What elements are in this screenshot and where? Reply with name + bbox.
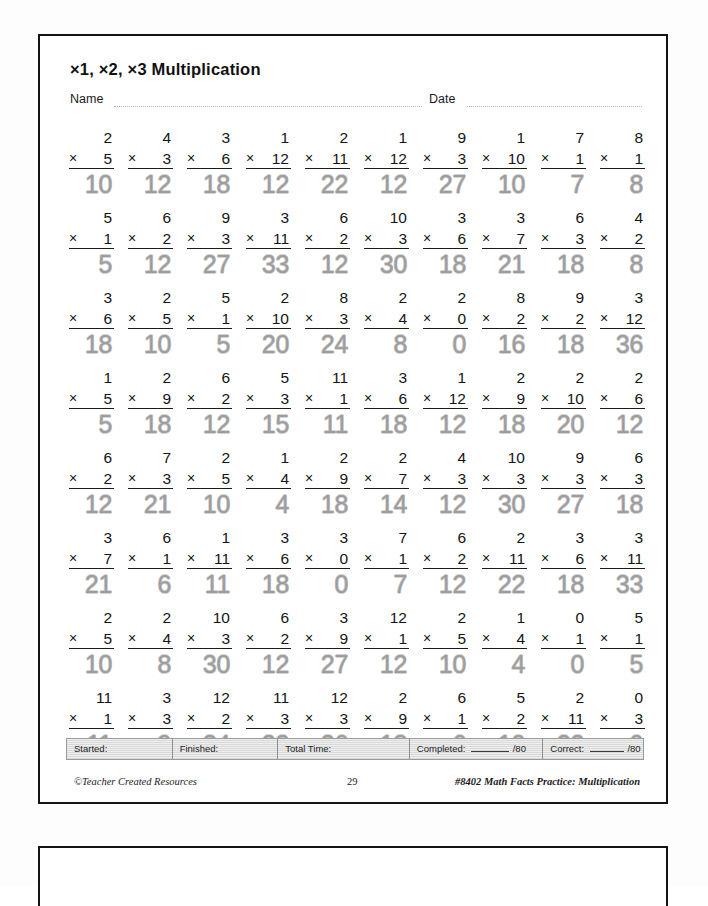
- answer-value[interactable]: 36: [600, 329, 645, 359]
- answer-value[interactable]: 18: [482, 409, 527, 439]
- problem-17: 3×618: [416, 208, 475, 288]
- answer-value[interactable]: 27: [187, 249, 232, 279]
- answer-value[interactable]: 10: [482, 169, 527, 199]
- book-title-credit: #8402 Math Facts Practice: Multiplicatio…: [455, 776, 640, 787]
- answer-value[interactable]: 12: [187, 409, 232, 439]
- answer-value[interactable]: 27: [423, 169, 468, 199]
- answer-value[interactable]: 18: [541, 569, 586, 599]
- bottom-factor: 6: [575, 548, 584, 568]
- date-input-rule[interactable]: [467, 106, 642, 107]
- answer-value[interactable]: 10: [69, 649, 114, 679]
- answer-value[interactable]: 10: [187, 489, 232, 519]
- answer-value[interactable]: 18: [246, 569, 291, 599]
- answer-value[interactable]: 27: [305, 649, 350, 679]
- answer-value[interactable]: 12: [423, 409, 468, 439]
- answer-value[interactable]: 18: [187, 169, 232, 199]
- answer-value[interactable]: 18: [364, 409, 409, 439]
- answer-value[interactable]: 7: [364, 569, 409, 599]
- answer-value[interactable]: 12: [423, 569, 468, 599]
- top-factor: 0: [600, 688, 645, 708]
- answer-value[interactable]: 16: [482, 329, 527, 359]
- answer-value[interactable]: 12: [305, 249, 350, 279]
- answer-value[interactable]: 21: [482, 249, 527, 279]
- operator-row: ×7: [69, 548, 114, 569]
- correct-cell[interactable]: Correct: /80: [543, 739, 643, 759]
- multiply-icon: ×: [128, 148, 136, 168]
- answer-value[interactable]: 8: [128, 649, 173, 679]
- answer-value[interactable]: 33: [246, 249, 291, 279]
- answer-value[interactable]: 18: [423, 249, 468, 279]
- bottom-factor: 7: [516, 228, 525, 248]
- answer-value[interactable]: 27: [541, 489, 586, 519]
- answer-value[interactable]: 12: [423, 489, 468, 519]
- answer-value[interactable]: 6: [128, 569, 173, 599]
- answer-value[interactable]: 10: [423, 649, 468, 679]
- answer-value[interactable]: 12: [246, 649, 291, 679]
- answer-value[interactable]: 0: [305, 569, 350, 599]
- answer-value[interactable]: 12: [364, 169, 409, 199]
- answer-value[interactable]: 4: [246, 489, 291, 519]
- answer-value[interactable]: 12: [128, 249, 173, 279]
- multiply-icon: ×: [423, 708, 431, 728]
- multiply-icon: ×: [364, 708, 372, 728]
- answer-value[interactable]: 5: [69, 409, 114, 439]
- answer-value[interactable]: 22: [305, 169, 350, 199]
- top-factor: 5: [600, 608, 645, 628]
- answer-value[interactable]: 24: [305, 329, 350, 359]
- answer-value[interactable]: 8: [600, 169, 645, 199]
- completed-blank[interactable]: [471, 743, 509, 752]
- answer-value[interactable]: 12: [600, 409, 645, 439]
- bottom-factor: 3: [280, 388, 289, 408]
- bottom-factor: 11: [332, 148, 348, 168]
- top-factor: 8: [600, 128, 645, 148]
- answer-value[interactable]: 20: [246, 329, 291, 359]
- problem-67: 2×510: [416, 608, 475, 688]
- answer-value[interactable]: 21: [128, 489, 173, 519]
- answer-value[interactable]: 5: [69, 249, 114, 279]
- correct-blank[interactable]: [590, 743, 624, 752]
- answer-value[interactable]: 18: [600, 489, 645, 519]
- answer-value[interactable]: 12: [128, 169, 173, 199]
- answer-value[interactable]: 0: [541, 649, 586, 679]
- answer-value[interactable]: 8: [600, 249, 645, 279]
- answer-value[interactable]: 11: [187, 569, 232, 599]
- answer-value[interactable]: 10: [69, 169, 114, 199]
- answer-value[interactable]: 21: [69, 569, 114, 599]
- answer-value[interactable]: 18: [305, 489, 350, 519]
- answer-value[interactable]: 15: [246, 409, 291, 439]
- top-factor: 6: [69, 448, 114, 468]
- name-input-rule[interactable]: [114, 106, 422, 107]
- answer-value[interactable]: 30: [187, 649, 232, 679]
- answer-value[interactable]: 12: [69, 489, 114, 519]
- completed-cell[interactable]: Completed: /80: [410, 739, 544, 759]
- answer-value[interactable]: 30: [364, 249, 409, 279]
- answer-value[interactable]: 8: [364, 329, 409, 359]
- answer-value[interactable]: 12: [246, 169, 291, 199]
- completed-total: /80: [513, 743, 526, 754]
- answer-value[interactable]: 18: [541, 249, 586, 279]
- answer-value[interactable]: 22: [482, 569, 527, 599]
- problem-50: 6×318: [593, 448, 652, 528]
- answer-value[interactable]: 12: [364, 649, 409, 679]
- answer-value[interactable]: 5: [600, 649, 645, 679]
- answer-value[interactable]: 7: [541, 169, 586, 199]
- answer-value[interactable]: 0: [423, 329, 468, 359]
- answer-value[interactable]: 11: [305, 409, 350, 439]
- answer-value[interactable]: 4: [482, 649, 527, 679]
- operator-row: ×11: [600, 548, 645, 569]
- answer-value[interactable]: 5: [187, 329, 232, 359]
- answer-value[interactable]: 18: [128, 409, 173, 439]
- bottom-factor: 1: [398, 628, 407, 648]
- answer-value[interactable]: 14: [364, 489, 409, 519]
- answer-value[interactable]: 33: [600, 569, 645, 599]
- answer-value[interactable]: 20: [541, 409, 586, 439]
- answer-value[interactable]: 30: [482, 489, 527, 519]
- operator-row: ×6: [187, 148, 232, 169]
- answer-value[interactable]: 18: [69, 329, 114, 359]
- answer-value[interactable]: 18: [541, 329, 586, 359]
- started-cell[interactable]: Started:: [67, 739, 173, 759]
- answer-value[interactable]: 10: [128, 329, 173, 359]
- total-time-cell[interactable]: Total Time:: [278, 739, 410, 759]
- finished-cell[interactable]: Finished:: [173, 739, 279, 759]
- name-date-line: Name Date: [70, 92, 642, 110]
